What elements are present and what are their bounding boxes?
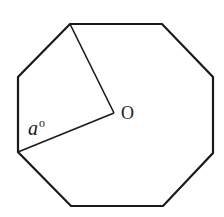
angle-label: ao bbox=[28, 118, 45, 138]
octagon-diagram bbox=[0, 0, 224, 217]
radius-line-top bbox=[70, 24, 114, 113]
angle-variable: a bbox=[28, 117, 38, 139]
degree-symbol: o bbox=[39, 116, 45, 130]
regular-octagon bbox=[18, 24, 213, 206]
center-label-o: O bbox=[121, 104, 134, 122]
